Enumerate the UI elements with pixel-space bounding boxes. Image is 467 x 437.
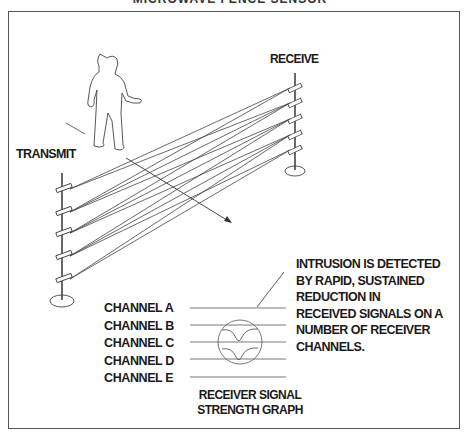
channel-label: CHANNEL C	[104, 335, 174, 353]
channel-label: CHANNEL B	[104, 318, 174, 336]
transmit-pole	[50, 173, 74, 307]
receive-pole	[285, 73, 305, 176]
intruder-person-icon	[88, 54, 142, 150]
annotation-line: RECEIVED SIGNALS ON A	[296, 306, 443, 323]
fence-diagram	[0, 0, 467, 437]
ground-line	[66, 123, 85, 134]
annotation-line: CHANNELS.	[296, 339, 443, 356]
annotation-line: REDUCTION IN	[296, 289, 443, 306]
channel-label: CHANNEL A	[104, 300, 174, 318]
channel-labels: CHANNEL A CHANNEL B CHANNEL C CHANNEL D …	[104, 300, 174, 388]
annotation-line: INTRUSION IS DETECTED	[296, 256, 443, 273]
intrusion-annotation: INTRUSION IS DETECTED BY RAPID, SUSTAINE…	[296, 256, 443, 355]
annotation-line: NUMBER OF RECEIVER	[296, 322, 443, 339]
graph-caption: RECEIVER SIGNAL STRENGTH GRAPH	[185, 388, 315, 418]
annotation-leader-line	[257, 272, 284, 307]
receive-label: RECEIVE	[270, 52, 318, 66]
caption-line-1: RECEIVER SIGNAL	[185, 388, 315, 403]
channel-label: CHANNEL E	[104, 370, 174, 388]
transmit-label: TRANSMIT	[16, 147, 76, 161]
channel-label: CHANNEL D	[104, 353, 174, 371]
annotation-line: BY RAPID, SUSTAINED	[296, 273, 443, 290]
signal-strength-graph	[190, 308, 286, 377]
caption-line-2: STRENGTH GRAPH	[185, 403, 315, 418]
